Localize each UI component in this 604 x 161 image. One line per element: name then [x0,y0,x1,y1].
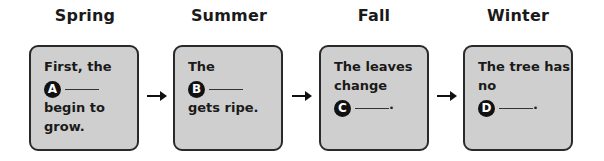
title-fall: Fall [314,6,434,25]
blank-a [65,79,99,90]
summer-text: The B gets ripe. [188,57,259,117]
blank-d [499,98,533,109]
text-line: gets ripe. [188,98,259,117]
punct: . [389,97,394,112]
title-summer: Summer [169,6,289,25]
arrow-icon [146,90,168,102]
summer-box: The B gets ripe. [173,45,283,151]
title-winter: Winter [458,6,578,25]
blank-b [209,79,243,90]
badge-c: C [334,100,351,117]
text-line: The tree has [478,57,570,76]
spring-box: First, the A begin to grow. [29,45,139,151]
arrow-icon [436,90,458,102]
text-line: The [188,57,259,76]
text-line: grow. [44,117,111,136]
text-line: First, the [44,57,111,76]
blank-c [355,98,389,109]
badge-d: D [478,100,495,117]
fall-text: The leaves change C. [334,57,413,117]
fall-box: The leaves change C. [319,45,429,151]
text-line: The leaves [334,57,413,76]
winter-box: The tree has no D. [463,45,573,151]
winter-text: The tree has no D. [478,57,570,117]
spring-text: First, the A begin to grow. [44,57,111,136]
text-line: begin to [44,98,111,117]
title-spring: Spring [25,6,145,25]
arrow-icon [291,90,313,102]
badge-a: A [44,81,61,98]
badge-b: B [188,81,205,98]
text-line: change [334,76,413,95]
punct: . [533,97,538,112]
text-line: no [478,76,570,95]
